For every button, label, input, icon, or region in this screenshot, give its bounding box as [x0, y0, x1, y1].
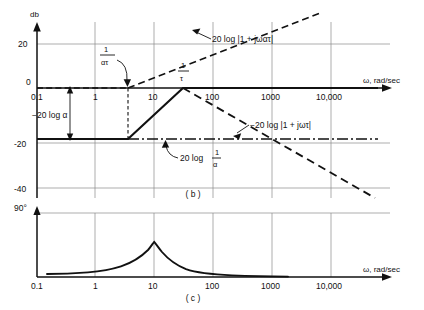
corner-low-annotation: 1 ατ: [100, 45, 131, 87]
gain-level-numerator: 1: [215, 148, 219, 157]
xtick-1000: 1000: [261, 92, 280, 102]
magnitude-y-axis-title: db: [30, 10, 39, 19]
rising-asymptote-leader: [196, 32, 211, 39]
gain-gap-label: −20 log α: [32, 110, 67, 120]
corner-high-numerator: 1: [181, 61, 185, 70]
corner-low-numerator: 1: [104, 45, 108, 54]
xtick-1: 1: [93, 92, 98, 102]
phase-ytick-90deg: 90°: [14, 203, 27, 213]
rising-asymptote-annotation: 20 log |1 + jωατ|: [192, 28, 273, 44]
gain-level-prefix: 20 log: [180, 153, 203, 163]
rising-asymptote-line: [128, 13, 320, 88]
xtick-100: 100: [205, 92, 219, 102]
phase-grid-vertical: [95, 213, 331, 277]
panel-label-c: ( c ): [186, 293, 201, 303]
phase-xtick-10: 10: [148, 281, 158, 291]
phase-xtick-0.1: 0.1: [31, 281, 43, 291]
falling-asymptote-label: −20 log |1 + jωτ|: [250, 120, 311, 130]
corner-high-denominator: τ: [180, 74, 183, 83]
gain-level-arrowhead: [162, 140, 169, 148]
magnitude-x-axis-title: ω, rad/sec: [363, 76, 400, 85]
corner-high-annotation: 1 τ: [178, 61, 189, 83]
gain-gap-arrowhead-up: [67, 86, 73, 94]
figure-canvas: 20 0 -20 -40 db 0.1 1 10 100 1000 10,000…: [0, 0, 424, 310]
corner-low-arrowhead: [124, 79, 131, 87]
corner-low-denominator: ατ: [101, 58, 108, 67]
phase-panel: 90° 0.1 1 10 100 1000 10,000 ω, rad/sec …: [14, 203, 400, 303]
magnitude-panel: 20 0 -20 -40 db 0.1 1 10 100 1000 10,000…: [14, 10, 400, 199]
phase-angle-curve: [47, 242, 288, 277]
corner-low-arrow-shaft: [117, 60, 127, 81]
xtick-10: 10: [148, 92, 158, 102]
x-axis-arrowhead: [382, 84, 392, 92]
gain-level-annotation: 20 log 1 α: [162, 140, 221, 169]
rising-asymptote-label: 20 log |1 + jωατ|: [212, 34, 273, 44]
ytick-minus20: -20: [14, 139, 27, 149]
phase-xtick-10000: 10,000: [316, 281, 342, 291]
phase-xtick-1: 1: [93, 281, 98, 291]
phase-y-axis-arrowhead: [33, 206, 40, 215]
phase-x-axis-arrowhead: [382, 273, 392, 281]
phase-xtick-100: 100: [205, 281, 219, 291]
ytick-minus40: -40: [14, 184, 27, 194]
xtick-0.1: 0.1: [31, 92, 43, 102]
falling-asymptote-leader: [237, 125, 249, 133]
ytick-0: 0: [26, 77, 31, 87]
magnitude-grid-vertical: [95, 22, 331, 198]
phase-xtick-1000: 1000: [261, 281, 280, 291]
phase-x-axis-title: ω, rad/sec: [363, 265, 400, 274]
gain-level-arrow-shaft: [166, 146, 178, 158]
bode-plot-figure: 20 0 -20 -40 db 0.1 1 10 100 1000 10,000…: [0, 0, 424, 310]
ytick-20: 20: [18, 39, 28, 49]
xtick-10000: 10,000: [316, 92, 342, 102]
gain-level-denominator: α: [213, 160, 218, 169]
panel-label-b: ( b ): [185, 189, 200, 199]
phase-y-axis: [33, 206, 40, 277]
y-axis-arrowhead: [33, 22, 41, 32]
